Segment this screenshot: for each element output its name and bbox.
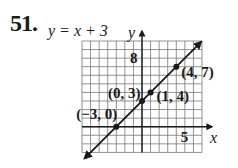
graph: xy58(−3, 0)(0, 3)(1, 4)(4, 7) [0, 0, 238, 168]
y-tick-label: 8 [130, 50, 138, 66]
x-axis-label: x [209, 129, 217, 146]
data-point [148, 89, 154, 95]
point-label: (0, 3) [108, 85, 141, 102]
x-tick-label: 5 [181, 129, 189, 145]
y-axis-label: y [126, 24, 136, 42]
data-point [113, 124, 119, 130]
point-label: (1, 4) [157, 88, 190, 105]
data-point [173, 64, 179, 70]
point-label: (4, 7) [181, 64, 214, 81]
point-label: (−3, 0) [76, 106, 117, 123]
